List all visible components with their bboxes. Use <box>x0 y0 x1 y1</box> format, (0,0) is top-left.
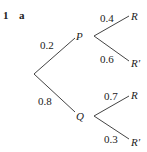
node-q-r: R <box>131 90 138 101</box>
prob-p-rprime: 0.6 <box>100 54 114 65</box>
prob-q: 0.8 <box>38 96 52 107</box>
prob-p-r: 0.4 <box>100 13 114 24</box>
node-p-rprime: R′ <box>131 58 140 69</box>
node-q: Q <box>76 111 84 122</box>
question-number: 1 <box>3 10 9 21</box>
node-p: P <box>76 31 83 42</box>
node-p-r: R <box>131 11 138 22</box>
prob-q-r: 0.7 <box>104 91 118 102</box>
prob-p: 0.2 <box>40 40 54 51</box>
prob-q-rprime: 0.3 <box>104 134 118 145</box>
node-q-rprime: R′ <box>131 137 140 148</box>
question-part: a <box>19 10 25 21</box>
tree-diagram-lines <box>0 0 147 152</box>
